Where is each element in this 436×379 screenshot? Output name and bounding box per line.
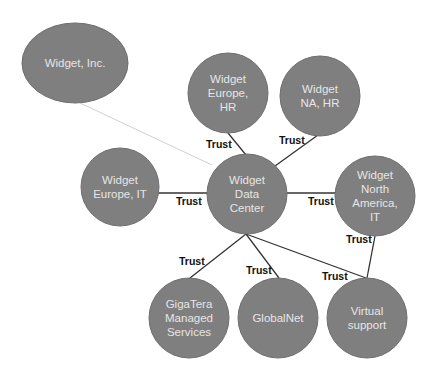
node-data-center: WidgetDataCenter [207, 154, 287, 234]
node-shape [81, 148, 159, 226]
node-label-line: Data [235, 188, 260, 200]
trust-label: Trust [206, 138, 232, 150]
node-label-line: Widget [357, 169, 394, 181]
node-europe-hr: WidgetEurope,HR [188, 53, 268, 133]
nodes-layer: Widget, Inc.WidgetEurope,HRWidgetNA, HRW… [22, 23, 415, 358]
trust-label: Trust [279, 134, 305, 146]
node-gigatera: GigaTeraManagedServices [149, 278, 229, 358]
node-shape [327, 278, 407, 358]
node-label-line: Widget [302, 83, 339, 95]
node-label-line: Center [230, 202, 265, 214]
node-widget-inc: Widget, Inc. [22, 23, 128, 103]
node-label-line: Europe, IT [93, 188, 147, 200]
node-globalnet: GlobalNet [238, 278, 318, 358]
node-label-line: Services [167, 326, 211, 338]
node-label-line: HR [220, 101, 237, 113]
node-shape [280, 56, 360, 136]
node-label-line: Virtual [351, 305, 383, 317]
trust-label: Trust [176, 195, 202, 207]
node-shape [335, 156, 415, 236]
node-label-line: Europe, [208, 87, 248, 99]
node-label-line: Widget, Inc. [45, 57, 106, 69]
node-label-line: America, [352, 197, 397, 209]
node-europe-it: WidgetEurope, IT [81, 148, 159, 226]
trust-label: Trust [308, 195, 334, 207]
node-na-hr: WidgetNA, HR [280, 56, 360, 136]
node-label-line: support [348, 319, 387, 331]
trust-label: Trust [179, 255, 205, 267]
node-label-line: IT [370, 211, 380, 223]
node-north-america-it: WidgetNorthAmerica,IT [335, 156, 415, 236]
trust-label: Trust [346, 233, 372, 245]
trust-label: Trust [322, 270, 348, 282]
node-label-line: GlobalNet [252, 312, 304, 324]
node-label-line: Widget [102, 174, 139, 186]
trust-diagram: Widget, Inc.WidgetEurope,HRWidgetNA, HRW… [0, 0, 436, 379]
node-virtual-support: Virtualsupport [327, 278, 407, 358]
trust-label: Trust [246, 264, 272, 276]
node-label-line: NA, HR [301, 97, 340, 109]
node-label-line: Widget [229, 174, 266, 186]
node-label-line: Widget [210, 73, 247, 85]
node-label-line: Managed [165, 312, 213, 324]
node-label-line: North [361, 183, 389, 195]
node-label-line: GigaTera [166, 298, 213, 310]
